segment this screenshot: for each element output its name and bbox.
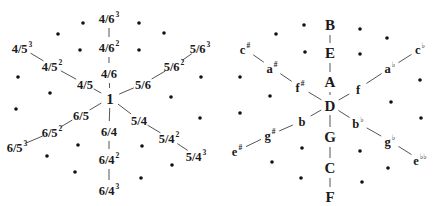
- node-superscript: #: [274, 60, 278, 69]
- node-label-upper-left: 4/52: [42, 58, 63, 74]
- node-label-up: 4/62: [99, 39, 120, 55]
- node-base: a: [267, 62, 274, 76]
- connector-line: [279, 125, 293, 131]
- node-label-upper-right: c♭: [415, 41, 425, 57]
- node-base: E: [325, 45, 335, 61]
- node-label-upper-right: a♭: [385, 60, 396, 76]
- lattice-labels: 14/64/624/634/54/524/535/65/625/636/56/5…: [7, 10, 427, 205]
- node-label-lower-right: 5/4: [131, 114, 148, 128]
- node-label-down: G: [324, 129, 336, 145]
- node-superscript: 2: [176, 130, 180, 139]
- lattice-dot: [56, 32, 60, 36]
- node-base: g: [265, 129, 272, 143]
- node-superscript: ♭: [392, 133, 396, 142]
- lattice-dot: [358, 52, 362, 56]
- node-superscript: #: [238, 143, 242, 152]
- lattice-dot: [78, 48, 82, 52]
- connector-line: [339, 94, 350, 100]
- lattice-dot: [81, 21, 85, 25]
- lattice-dot: [198, 116, 202, 120]
- connector-line: [311, 110, 322, 116]
- node-superscript: 3: [24, 139, 28, 148]
- node-base: A: [325, 74, 336, 90]
- lattice-dot: [358, 149, 362, 153]
- lattice-dot: [76, 143, 80, 147]
- node-label-upper-left: c#: [240, 41, 251, 57]
- node-label-upper-right: 5/63: [190, 40, 211, 56]
- lattice-dot: [268, 94, 272, 98]
- node-base: 4/5: [12, 42, 28, 56]
- node-base: 4/5: [77, 78, 93, 92]
- node-base: 5/6: [190, 42, 206, 56]
- node-base: 6/5: [7, 141, 23, 155]
- node-label-upper-left: 4/53: [12, 40, 33, 56]
- lattice-dot: [419, 116, 423, 120]
- connector-line: [309, 92, 322, 100]
- lattice-dot: [238, 111, 242, 115]
- lattice-dot: [16, 75, 20, 79]
- lattice-dot: [302, 23, 306, 27]
- lattice-dot: [300, 146, 304, 150]
- lattice-dot: [140, 144, 144, 148]
- node-label-lower-right: b♭: [352, 115, 364, 131]
- connector-line: [366, 73, 381, 83]
- connector-line: [119, 88, 134, 94]
- node-superscript: 2: [116, 151, 120, 160]
- lattice-dot: [137, 21, 141, 25]
- node-superscript: 2: [59, 124, 63, 133]
- node-superscript: 2: [116, 39, 120, 48]
- node-label-lower-right: e♭♭: [413, 152, 427, 168]
- node-base: 4/6: [101, 67, 117, 81]
- lattice-dot: [360, 180, 364, 184]
- connector-line: [118, 104, 131, 114]
- node-superscript: ♭: [422, 41, 426, 50]
- lattice-dot: [199, 75, 203, 79]
- connector-line: [280, 74, 291, 82]
- connector-line: [398, 146, 411, 154]
- node-label-down: C: [325, 160, 336, 176]
- node-label-lower-left: 6/53: [7, 139, 28, 155]
- lattice-dot: [274, 32, 278, 36]
- lattice-dot: [358, 27, 362, 31]
- lattice-dot: [270, 160, 274, 164]
- node-label-lower-left: b: [299, 115, 306, 129]
- lattice-dot: [73, 170, 77, 174]
- node-base: 6/4: [99, 184, 116, 198]
- node-base: F: [325, 189, 334, 205]
- node-base: 5/6: [135, 78, 151, 92]
- node-superscript: #: [301, 79, 305, 88]
- node-superscript: 2: [181, 58, 185, 67]
- node-base: b: [352, 117, 359, 131]
- connector-line: [367, 128, 382, 136]
- node-label-lower-left: g#: [265, 127, 276, 143]
- node-label-down: 6/43: [99, 182, 120, 198]
- node-base: 6/5: [42, 126, 58, 140]
- connector-line: [338, 110, 349, 117]
- node-base: C: [325, 160, 336, 176]
- connector-line: [94, 89, 102, 93]
- node-superscript: ♭: [360, 115, 364, 124]
- node-base: G: [324, 129, 336, 145]
- node-superscript: #: [272, 127, 276, 136]
- lattice-dot: [45, 154, 49, 158]
- node-label-up: 4/63: [99, 10, 120, 26]
- node-label-upper-right: 5/6: [135, 78, 151, 92]
- connector-line: [246, 139, 261, 146]
- node-base: c: [415, 43, 421, 57]
- connector-line: [253, 55, 264, 62]
- node-base: B: [325, 17, 335, 33]
- node-superscript: ♭: [392, 60, 396, 69]
- node-label-lower-left: e#: [232, 143, 243, 159]
- node-base: 4/6: [99, 41, 115, 55]
- node-label-lower-left: 6/5: [73, 109, 89, 123]
- node-label-upper-left: a#: [267, 60, 278, 76]
- node-label-lower-right: g♭: [385, 133, 396, 149]
- node-label-down: 6/4: [101, 125, 118, 139]
- node-base: e: [413, 154, 419, 168]
- lattice-dot: [169, 95, 173, 99]
- node-superscript: #: [246, 41, 250, 50]
- node-base: f: [356, 83, 361, 97]
- connector-line: [61, 120, 73, 127]
- lattice-dot: [170, 163, 174, 167]
- node-superscript: 3: [116, 182, 120, 191]
